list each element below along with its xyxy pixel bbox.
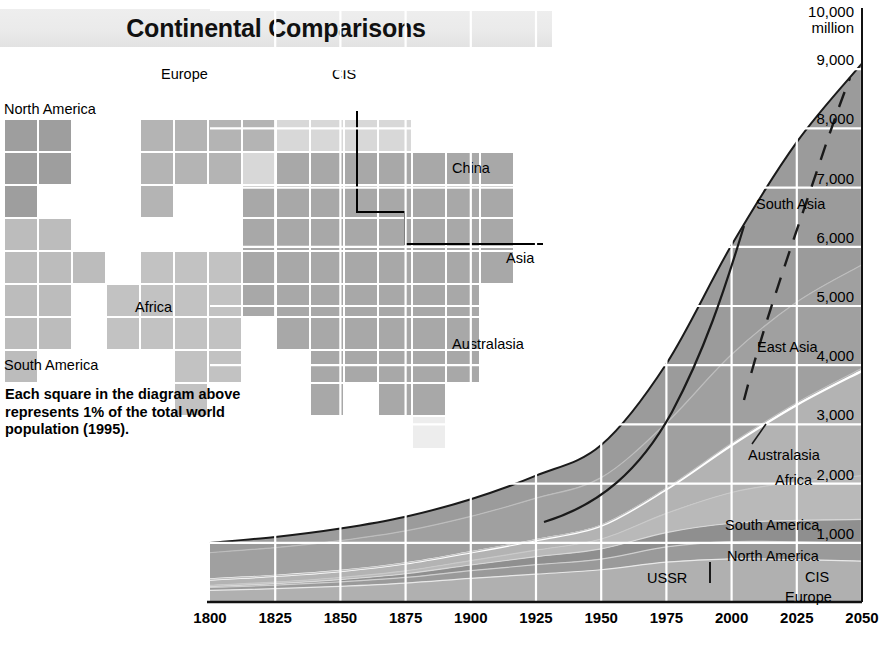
chart-x-tick-1950: 1950 bbox=[571, 609, 631, 626]
chart-y-tick-10000: 10,000 bbox=[770, 4, 854, 20]
chart-y-tick-6000: 6,000 bbox=[778, 229, 854, 246]
chart-y-tick-3000: 3,000 bbox=[778, 406, 854, 423]
band-label-south-asia: South Asia bbox=[756, 196, 825, 212]
chart-y-tick-7000: 7,000 bbox=[778, 170, 854, 187]
band-label-south-america: South America bbox=[725, 517, 819, 533]
band-label-cis: CIS bbox=[805, 569, 829, 585]
chart-y-tick-8000: 8,000 bbox=[778, 110, 854, 127]
chart-y-axis-unit: million bbox=[770, 20, 854, 36]
chart-x-tick-2000: 2000 bbox=[702, 609, 762, 626]
chart-x-tick-1900: 1900 bbox=[441, 609, 501, 626]
band-label-australasia: Australasia bbox=[748, 447, 820, 463]
chart-y-tick-5000: 5,000 bbox=[778, 288, 854, 305]
chart-x-tick-1825: 1825 bbox=[245, 609, 305, 626]
chart-x-tick-1800: 1800 bbox=[180, 609, 240, 626]
band-label-east-asia: East Asia bbox=[757, 339, 817, 355]
band-label-europe: Europe bbox=[785, 589, 832, 605]
chart-y-tick-9000: 9,000 bbox=[778, 51, 854, 68]
chart-x-tick-1925: 1925 bbox=[506, 609, 566, 626]
chart-y-axis-top-label: 10,000million bbox=[770, 4, 854, 36]
band-label-ussr: USSR bbox=[647, 570, 687, 586]
band-label-north-america: North America bbox=[727, 548, 819, 564]
chart-x-tick-2050: 2050 bbox=[832, 609, 883, 626]
band-label-africa: Africa bbox=[775, 472, 812, 488]
chart-x-tick-1875: 1875 bbox=[376, 609, 436, 626]
chart-x-tick-1850: 1850 bbox=[310, 609, 370, 626]
chart-x-tick-1975: 1975 bbox=[636, 609, 696, 626]
chart-x-tick-2025: 2025 bbox=[767, 609, 827, 626]
